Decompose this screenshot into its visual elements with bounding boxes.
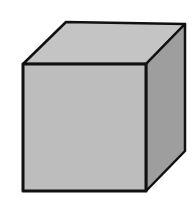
cube-front-face bbox=[23, 64, 146, 191]
cube-diagram bbox=[0, 0, 196, 197]
